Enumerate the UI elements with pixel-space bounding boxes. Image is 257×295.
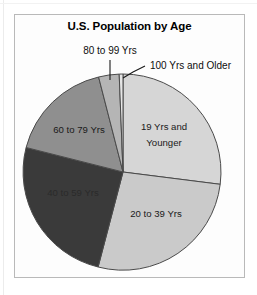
- slice-label-19-and-younger-line1: 19 Yrs and: [141, 121, 187, 132]
- callout-label-100-and-older: 100 Yrs and Older: [150, 60, 232, 71]
- callout-label-80-to-99: 80 to 99 Yrs: [83, 45, 137, 56]
- slice-label-60-to-79: 60 to 79 Yrs: [53, 124, 105, 135]
- slice-label-40-to-59: 40 to 59 Yrs: [47, 187, 99, 198]
- slice-label-20-to-39: 20 to 39 Yrs: [130, 208, 182, 219]
- slice-label-19-and-younger-line2: Younger: [146, 137, 182, 148]
- pie-chart: 80 to 99 Yrs 100 Yrs and Older 19 Yrs an…: [0, 0, 257, 295]
- chart-page: U.S. Population by Age 80 to 99 Yrs 100 …: [0, 0, 257, 295]
